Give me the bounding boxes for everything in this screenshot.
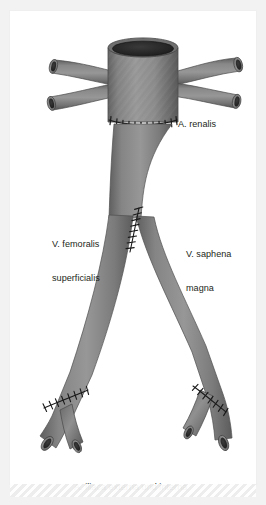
vein-conduit-trunk — [109, 124, 172, 218]
renal-artery-left-lower — [46, 84, 113, 111]
bottom-hatch-strip — [10, 484, 256, 497]
label-v-saphena-magna: V. saphena magna — [186, 226, 231, 317]
label-a-iliaca-externa-und-interna: A. iliaca externa und interna — [74, 459, 187, 505]
renal-artery-left-upper — [48, 59, 112, 85]
label-a-renalis-line1: A. renalis — [178, 119, 216, 130]
label-v-saphena-line1: V. saphena — [186, 249, 231, 260]
label-v-femoralis-superficialis: V. femoralis superficialis — [52, 216, 100, 307]
renal-artery-right-upper — [174, 56, 244, 85]
label-a-renalis: A. renalis — [178, 96, 216, 153]
label-v-femoralis-line1: V. femoralis — [52, 239, 100, 250]
figure-root: A. renalis V. femoralis superficialis V.… — [0, 0, 266, 505]
label-v-femoralis-line2: superficialis — [52, 273, 100, 284]
aortic-trunk-graft — [108, 38, 178, 122]
label-v-saphena-line2: magna — [186, 283, 231, 294]
